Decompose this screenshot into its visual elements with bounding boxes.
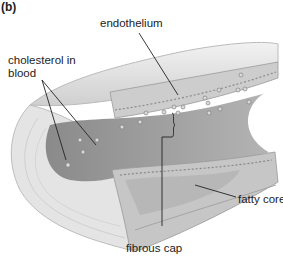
label-fibrous-cap: fibrous cap [126,242,182,255]
label-cholesterol-line2: blood [8,67,36,80]
label-cholesterol-line1: cholesterol in [8,54,76,67]
artery-illustration [0,0,283,257]
label-fatty-core: fatty core [238,193,283,206]
label-endothelium: endothelium [100,17,163,30]
